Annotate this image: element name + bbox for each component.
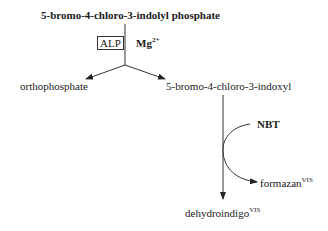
enzyme-label: ALP — [100, 37, 121, 49]
side-product-tag: VIS — [302, 176, 313, 184]
reaction-arrows — [0, 0, 328, 231]
cofactor-label: Mg2+ — [136, 37, 159, 49]
enzyme-box: ALP — [97, 36, 124, 50]
arrow-nbt-to-formazan — [223, 124, 257, 182]
arrow-to-orthophosphate — [86, 65, 125, 79]
product-right-label: 5-bromo-4-chloro-3-indoxyl — [166, 80, 291, 92]
side-product-label: formazanVIS — [260, 177, 313, 189]
product-left-label: orthophosphate — [20, 80, 88, 92]
reaction-diagram: 5-bromo-4-chloro-3-indolyl phosphate ALP… — [0, 0, 328, 231]
final-product-tag: VIS — [249, 206, 260, 214]
final-product-label: dehydroindigoVIS — [185, 207, 260, 219]
cofactor-charge: 2+ — [152, 36, 160, 44]
arrow-to-indoxyl — [125, 65, 165, 79]
reagent-label: NBT — [257, 118, 280, 130]
substrate-label: 5-bromo-4-chloro-3-indolyl phosphate — [41, 9, 220, 21]
